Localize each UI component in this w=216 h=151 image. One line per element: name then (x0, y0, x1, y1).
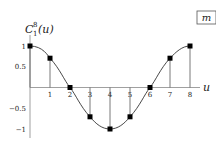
marker-u2 (68, 85, 73, 90)
title-arg: (u) (38, 23, 54, 36)
x-tick-1: 1 (48, 91, 52, 99)
x-tick-6: 6 (148, 91, 153, 99)
marker-u6 (148, 85, 153, 90)
x-tick-2: 2 (68, 91, 72, 99)
marker-u3 (88, 114, 93, 119)
marker-u7 (168, 56, 173, 61)
title-sub: 1 (33, 30, 37, 38)
title-sup: 8 (33, 21, 37, 29)
chart-title: C 8 1 (u) (25, 21, 54, 38)
y-tick-neg0.5: −0.5 (9, 105, 26, 113)
marker-u0 (28, 44, 33, 49)
x-tick-8: 8 (188, 91, 192, 99)
marker-u4 (108, 127, 113, 132)
y-tick-labels: 1 0.5 −0.5 −1 (9, 43, 26, 134)
marker-u1 (48, 56, 53, 61)
y-tick-0.5: 0.5 (15, 63, 26, 71)
x-tick-7: 7 (168, 91, 172, 99)
y-tick-1: 1 (22, 43, 26, 51)
x-tick-labels: 1 2 3 4 5 6 7 8 (48, 91, 192, 99)
cosine-basis-chart: 1 0.5 −0.5 −1 1 2 3 4 5 6 7 8 u C 8 1 (u… (0, 0, 216, 151)
annotation-box: m (197, 11, 216, 24)
marker-u8 (188, 44, 193, 49)
y-tick-neg1: −1 (16, 126, 26, 134)
annotation-box-label: m (202, 12, 211, 23)
x-axis-title: u (203, 81, 210, 94)
marker-u5 (128, 114, 133, 119)
